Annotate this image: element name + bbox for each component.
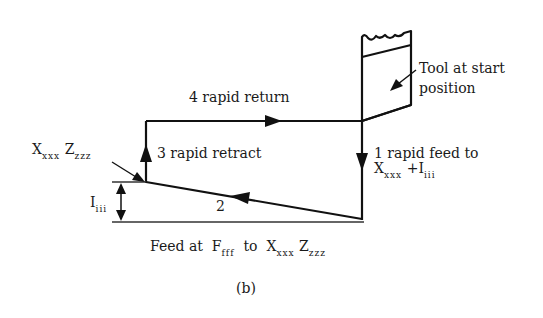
- z-subscript: zzz: [74, 151, 91, 161]
- plus-i-symbol: +I: [407, 160, 424, 176]
- to-word: to: [243, 238, 257, 254]
- x-subscript: xxx: [42, 151, 60, 161]
- x-symbol: X: [266, 238, 276, 254]
- x-subscript: xxx: [384, 170, 402, 180]
- rapid-return-path: [146, 115, 362, 127]
- label-increment: Iiii: [90, 194, 107, 212]
- label-rapid-feed: 1 rapid feed to: [374, 145, 478, 161]
- feed-prefix: Feed at: [150, 238, 203, 254]
- increment-dimension-arrow: [116, 183, 126, 221]
- label-rapid-feed-target: Xxxx +Iiii: [374, 160, 436, 178]
- z-symbol: Z: [299, 238, 309, 254]
- x-subscript: xxx: [276, 248, 294, 258]
- label-feed-step: 2: [216, 198, 225, 214]
- f-symbol: F: [212, 238, 222, 254]
- x-symbol: X: [32, 141, 42, 157]
- point-pointer-arrow: [112, 162, 145, 182]
- i-subscript: iii: [96, 204, 108, 214]
- f-subscript: fff: [222, 248, 235, 258]
- label-tool-start-line2: position: [419, 80, 476, 96]
- figure-caption: (b): [236, 280, 256, 296]
- i-subscript: iii: [424, 170, 436, 180]
- label-feed-instruction: Feed at Ffff to Xxxx Zzzz: [150, 238, 326, 256]
- rapid-retract-path: [140, 121, 152, 183]
- z-subscript: zzz: [309, 248, 326, 258]
- z-symbol: Z: [65, 141, 75, 157]
- rapid-feed-path: [356, 121, 368, 220]
- x-symbol: X: [374, 160, 384, 176]
- cutting-tool: [362, 31, 411, 121]
- i-symbol: I: [90, 194, 96, 210]
- label-rapid-retract: 3 rapid retract: [157, 145, 261, 161]
- feed-path: [146, 182, 362, 219]
- label-tool-start-line1: Tool at start: [419, 60, 505, 76]
- label-rapid-return: 4 rapid return: [189, 89, 290, 105]
- label-point-xz: Xxxx Zzzz: [32, 141, 92, 159]
